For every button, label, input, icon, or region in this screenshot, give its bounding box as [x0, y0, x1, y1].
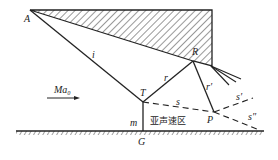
label-P: P [207, 115, 213, 125]
label-i: i [92, 50, 95, 60]
label-subsonic-region: 亚声速区 [150, 117, 186, 126]
label-s: s [176, 97, 180, 107]
shock-reflection-diagram: A i R r r′ T s s′ s″ P m G Ma₀ 亚声速区 [0, 0, 278, 160]
label-m: m [130, 118, 137, 128]
label-T: T [140, 88, 146, 98]
wedge-body [30, 10, 212, 66]
label-s-double-prime: s″ [248, 112, 256, 122]
expansion-fan [211, 66, 241, 85]
reflected-shock-r [143, 61, 193, 102]
label-r: r [164, 73, 168, 83]
label-r-prime: r′ [206, 82, 212, 92]
label-G: G [138, 137, 145, 147]
label-A: A [24, 14, 30, 24]
label-mach: Ma₀ [54, 85, 71, 95]
freestream-arrow-icon [47, 96, 80, 100]
label-s-prime: s′ [236, 92, 242, 102]
label-R: R [192, 47, 198, 57]
